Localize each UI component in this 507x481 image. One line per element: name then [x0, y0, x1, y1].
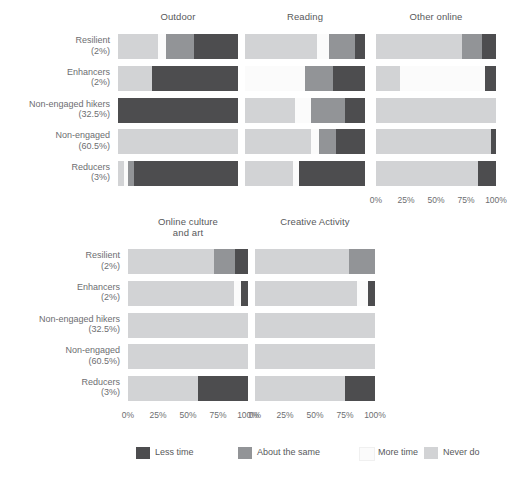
x-axis-tick-label: 25%	[149, 410, 166, 420]
bar-segment	[355, 34, 365, 59]
panel-title-line-1: Reading	[245, 11, 365, 22]
table-row	[118, 129, 238, 154]
table-row	[245, 66, 365, 91]
row-label-resilient: Resilient(2%)	[75, 35, 110, 56]
row-label-percentage: (60.5%)	[65, 356, 120, 367]
table-row	[128, 313, 248, 338]
table-row	[245, 129, 365, 154]
row-label-percentage: (2%)	[77, 292, 120, 303]
row-label-reducers: Reducers(3%)	[81, 377, 120, 398]
legend-label-less-time: Less time	[155, 446, 194, 459]
table-row	[118, 98, 238, 123]
row-label-name: Reducers	[71, 162, 110, 172]
legend-label-about-the-same: About the same	[257, 446, 320, 459]
bar-segment	[376, 34, 462, 59]
bar-segment	[235, 249, 248, 274]
row-label-percentage: (2%)	[67, 77, 110, 88]
bar-segment	[255, 313, 375, 338]
panel-other-online	[376, 31, 496, 189]
bar-segment	[128, 344, 248, 369]
row-label-non-engaged: Non-engaged(60.5%)	[55, 130, 110, 151]
x-axis-tick-label: 75%	[336, 410, 353, 420]
x-axis-creative-activity: 0%25%50%75%100%	[255, 410, 375, 422]
x-axis-tick-label: 75%	[457, 195, 474, 205]
bar-segment	[329, 34, 355, 59]
row-label-group-top: Resilient(2%)Enhancers(2%)Non-engaged hi…	[0, 31, 118, 189]
bar-segment	[478, 161, 496, 186]
bar-segment	[357, 281, 368, 306]
x-axis-tick-label: 50%	[306, 410, 323, 420]
row-label-percentage: (2%)	[85, 261, 120, 272]
table-row	[255, 281, 375, 306]
bar-segment	[485, 66, 496, 91]
row-label-enhancers: Enhancers(2%)	[67, 67, 110, 88]
legend-swatch-more-time	[359, 447, 375, 461]
row-label-group-bottom: Resilient(2%)Enhancers(2%)Non-engaged hi…	[0, 246, 128, 404]
table-row	[118, 34, 238, 59]
legend-swatch-about-the-same	[238, 447, 252, 459]
bar-segment	[255, 344, 375, 369]
bar-segment	[128, 249, 214, 274]
bar-segment	[482, 34, 496, 59]
row-label-resilient: Resilient(2%)	[85, 250, 120, 271]
bar-segment	[152, 66, 238, 91]
legend-label-more-time: More time	[378, 446, 418, 459]
table-row	[128, 249, 248, 274]
row-label-name: Non-engaged hikers	[39, 314, 120, 324]
bar-segment	[462, 34, 481, 59]
bar-segment	[317, 34, 329, 59]
x-axis-tick-label: 75%	[209, 410, 226, 420]
bar-segment	[255, 249, 349, 274]
bar-segment	[245, 66, 305, 91]
bar-segment	[255, 376, 345, 401]
bar-segment	[134, 161, 238, 186]
bar-segment	[295, 98, 311, 123]
bar-segment	[255, 281, 357, 306]
panel-title-online-culture: Online cultureand art	[128, 216, 248, 238]
table-row	[245, 161, 365, 186]
panel-title-line-1: Outdoor	[118, 11, 238, 22]
bar-segment	[333, 66, 365, 91]
row-label-percentage: (32.5%)	[29, 109, 110, 120]
bar-segment	[128, 376, 198, 401]
panel-title-line-2: and art	[128, 227, 248, 238]
row-label-percentage: (32.5%)	[39, 324, 120, 335]
bar-segment	[491, 129, 496, 154]
bar-segment	[128, 281, 234, 306]
bar-segment	[305, 66, 333, 91]
bar-segment	[118, 66, 152, 91]
bar-segment	[376, 161, 478, 186]
panel-title-line-1: Other online	[376, 11, 496, 22]
bar-segment	[214, 249, 234, 274]
bar-segment	[245, 161, 293, 186]
table-row	[255, 376, 375, 401]
table-row	[376, 161, 496, 186]
bar-segment	[336, 129, 365, 154]
panel-title-other-online: Other online	[376, 11, 496, 22]
x-axis-tick-label: 50%	[179, 410, 196, 420]
x-axis-tick-label: 0%	[370, 195, 382, 205]
table-row	[255, 313, 375, 338]
table-row	[245, 98, 365, 123]
bar-segment	[128, 313, 248, 338]
legend-label-never-do: Never do	[443, 446, 480, 459]
panel-reading	[245, 31, 365, 189]
bar-segment	[118, 34, 158, 59]
row-label-non-engaged-hikers: Non-engaged hikers(32.5%)	[29, 99, 110, 120]
bar-segment	[198, 376, 248, 401]
table-row	[376, 34, 496, 59]
bar-segment	[349, 249, 375, 274]
bar-segment	[118, 129, 238, 154]
legend-swatch-never-do	[424, 447, 438, 459]
row-label-name: Reducers	[81, 377, 120, 387]
bar-segment	[166, 34, 194, 59]
row-label-name: Non-engaged	[65, 345, 120, 355]
row-label-non-engaged-hikers: Non-engaged hikers(32.5%)	[39, 314, 120, 335]
bar-segment	[368, 281, 375, 306]
row-label-enhancers: Enhancers(2%)	[77, 282, 120, 303]
row-label-name: Enhancers	[77, 282, 120, 292]
x-axis-tick-label: 0%	[249, 410, 261, 420]
bar-segment	[245, 129, 311, 154]
x-axis-tick-label: 50%	[427, 195, 444, 205]
